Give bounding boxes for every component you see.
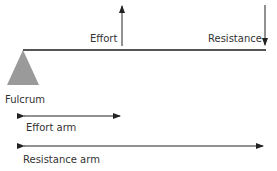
fulcrum-triangle [7,50,39,85]
fulcrum-label: Fulcrum [5,94,45,106]
lever-diagram [0,0,277,171]
effort-arm-label: Effort arm [26,122,76,134]
resistance-label: Resistance [208,33,262,45]
resistance-arm-label: Resistance arm [23,154,100,166]
effort-label: Effort [90,33,117,45]
